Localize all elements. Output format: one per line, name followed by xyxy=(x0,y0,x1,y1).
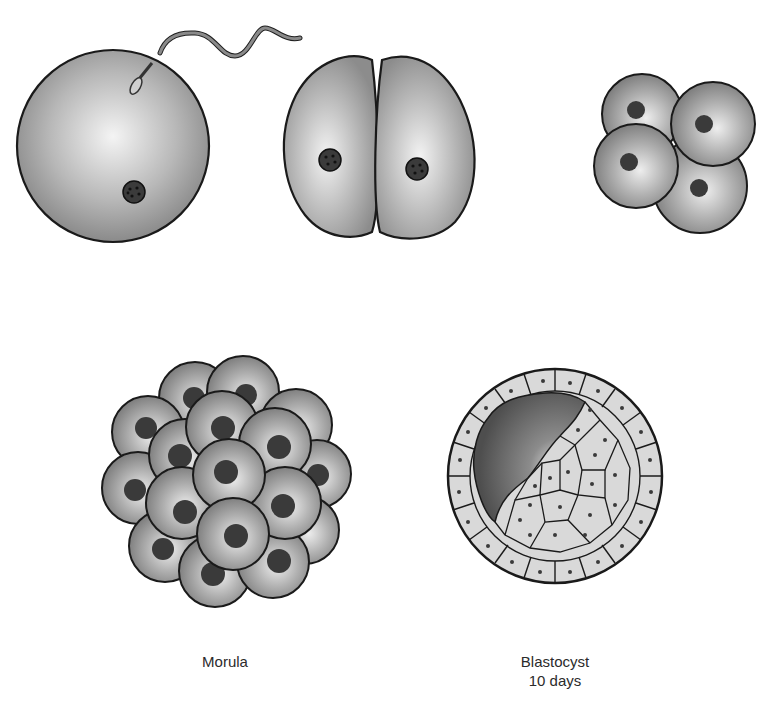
nucleus-icon xyxy=(690,179,708,197)
blastocyst xyxy=(448,369,662,583)
four-cell-stage xyxy=(594,74,755,233)
blastomere-left xyxy=(284,56,378,236)
blastocyst-label-text: Blastocyst xyxy=(500,652,610,671)
nucleus-icon xyxy=(406,158,428,180)
nucleus-icon xyxy=(627,101,645,119)
embryo-diagram xyxy=(0,0,777,723)
morula xyxy=(102,356,351,607)
nucleus-icon xyxy=(319,149,341,171)
morula-label: Morula xyxy=(175,652,275,671)
blastocyst-age-text: 10 days xyxy=(500,671,610,690)
nucleus-icon xyxy=(695,115,713,133)
nucleus-icon xyxy=(123,181,145,203)
morula-label-text: Morula xyxy=(202,653,248,670)
two-cell-stage xyxy=(284,56,475,238)
egg-cell xyxy=(17,50,209,242)
fertilized-egg xyxy=(17,28,300,242)
nucleus-icon xyxy=(620,153,638,171)
blastomere-right xyxy=(375,57,474,239)
blastocyst-label: Blastocyst 10 days xyxy=(500,652,610,690)
